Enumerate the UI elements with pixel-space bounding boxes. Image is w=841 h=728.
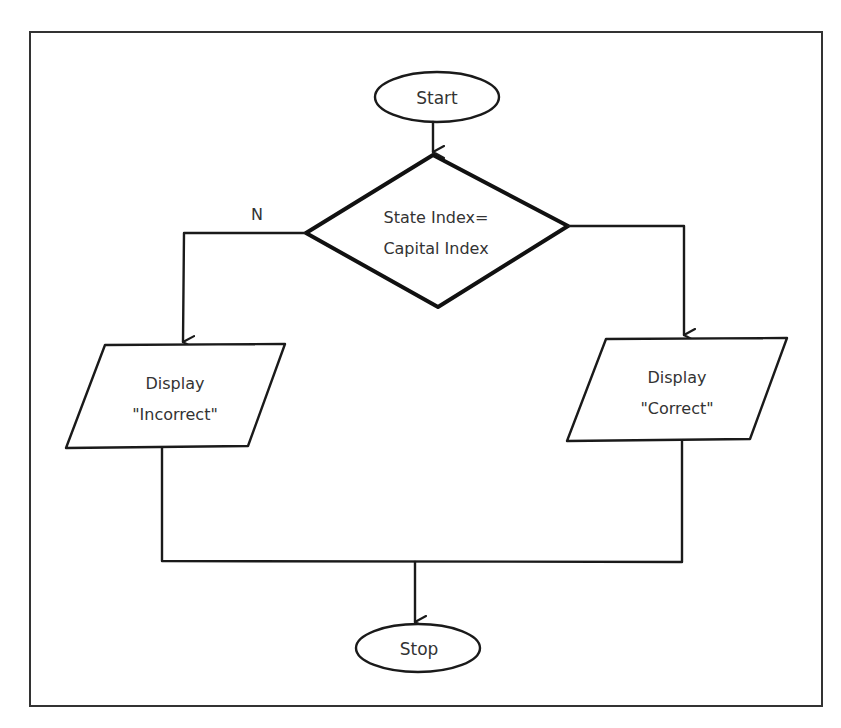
edge-decision-to-incorrect xyxy=(183,233,305,342)
edge-decision-to-correct xyxy=(568,226,684,335)
display-correct-shape xyxy=(567,338,787,441)
start-node: Start xyxy=(375,72,499,122)
edge-merge-connector xyxy=(162,441,682,562)
decision-diamond-shape xyxy=(306,155,568,307)
start-label: Start xyxy=(416,88,458,108)
display-incorrect-node: Display "Incorrect" xyxy=(66,344,285,448)
decision-node: State Index= Capital Index xyxy=(306,155,568,307)
display-correct-line1: Display xyxy=(648,368,707,387)
display-incorrect-line2: "Incorrect" xyxy=(132,405,218,424)
display-incorrect-shape xyxy=(66,344,285,448)
branch-label-no: N xyxy=(251,205,263,224)
display-correct-node: Display "Correct" xyxy=(567,338,787,441)
decision-label-line1: State Index= xyxy=(384,208,489,227)
display-incorrect-line1: Display xyxy=(146,374,205,393)
display-correct-line2: "Correct" xyxy=(640,399,713,418)
stop-node: Stop xyxy=(356,624,480,672)
stop-label: Stop xyxy=(400,639,439,659)
decision-label-line2: Capital Index xyxy=(383,239,488,258)
flowchart-canvas: Start State Index= Capital Index N Displ… xyxy=(0,0,841,728)
